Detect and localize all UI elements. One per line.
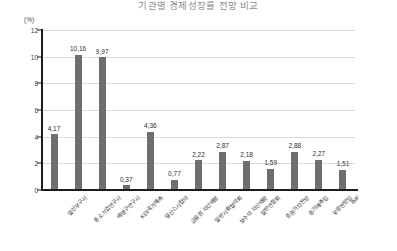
y-axis-tick-mark bbox=[37, 56, 42, 57]
gridline bbox=[42, 57, 355, 58]
x-axis-line bbox=[41, 189, 358, 191]
bar-value-label: 9,97 bbox=[96, 48, 109, 55]
gridline bbox=[42, 137, 355, 138]
x-axis-category-label: 중소기업연구시 bbox=[92, 194, 122, 224]
bar-value-label: 0,37 bbox=[120, 176, 133, 183]
bar-value-label: 2,22 bbox=[192, 151, 205, 158]
gridline bbox=[42, 110, 355, 111]
bar-chart: 기관별 경제성장률 전망 비교 (%) 0246810124,17일산부구시10… bbox=[0, 0, 397, 251]
bar bbox=[147, 132, 154, 190]
gridline bbox=[42, 30, 355, 31]
y-axis-tick-label: 4 bbox=[22, 133, 38, 140]
bar-value-label: 2,88 bbox=[288, 142, 301, 149]
bar-value-label: 1,59 bbox=[264, 159, 277, 166]
bar bbox=[195, 160, 202, 190]
y-axis-tick-label: 0 bbox=[22, 187, 38, 194]
x-axis-category-label: 우량전망팀 bbox=[330, 194, 353, 217]
bar-value-label: 1,51 bbox=[337, 160, 350, 167]
x-axis-category-label: 중기예측팀 bbox=[306, 194, 329, 217]
bar bbox=[51, 134, 58, 190]
y-axis-tick-mark bbox=[37, 190, 42, 191]
x-axis-category-label: IMF bbox=[350, 194, 361, 205]
bar bbox=[315, 160, 322, 190]
x-axis-category-label: 일산부구시 bbox=[65, 194, 88, 217]
bar bbox=[75, 55, 82, 190]
bar-value-label: 4,36 bbox=[144, 122, 157, 129]
y-axis-tick-label: 8 bbox=[22, 80, 38, 87]
y-axis-tick-mark bbox=[37, 110, 42, 111]
bar bbox=[267, 169, 274, 190]
y-axis-tick-mark bbox=[37, 136, 42, 137]
x-axis-category-label: KDI국가예측 bbox=[139, 194, 165, 220]
bar bbox=[219, 152, 226, 190]
y-axis-tick-label: 10 bbox=[22, 53, 38, 60]
bar bbox=[99, 57, 106, 190]
y-axis-tick-label: 2 bbox=[22, 160, 38, 167]
x-axis-category-label: 증권가치전망 bbox=[284, 194, 311, 221]
y-axis-tick-mark bbox=[37, 163, 42, 164]
gridline bbox=[42, 83, 355, 84]
y-axis-tick-label: 12 bbox=[22, 27, 38, 34]
y-axis-tick-mark bbox=[37, 83, 42, 84]
chart-title: 기관별 경제성장률 전망 비교 bbox=[0, 0, 397, 12]
bar-value-label: 2,18 bbox=[240, 151, 253, 158]
bar bbox=[243, 161, 250, 190]
bar bbox=[339, 170, 346, 190]
plot-area bbox=[42, 30, 355, 190]
bar-value-label: 10,16 bbox=[70, 45, 86, 52]
x-axis-category-label: 일산스사협의 bbox=[163, 194, 190, 221]
y-axis-tick-label: 6 bbox=[22, 107, 38, 114]
y-axis-unit-label: (%) bbox=[24, 16, 34, 23]
bar-value-label: 2,27 bbox=[313, 150, 326, 157]
bar-value-label: 4,17 bbox=[48, 125, 61, 132]
bar-value-label: 2,87 bbox=[216, 142, 229, 149]
bar-value-label: 0,77 bbox=[168, 170, 181, 177]
y-axis-tick-mark bbox=[37, 30, 42, 31]
bar bbox=[291, 152, 298, 190]
